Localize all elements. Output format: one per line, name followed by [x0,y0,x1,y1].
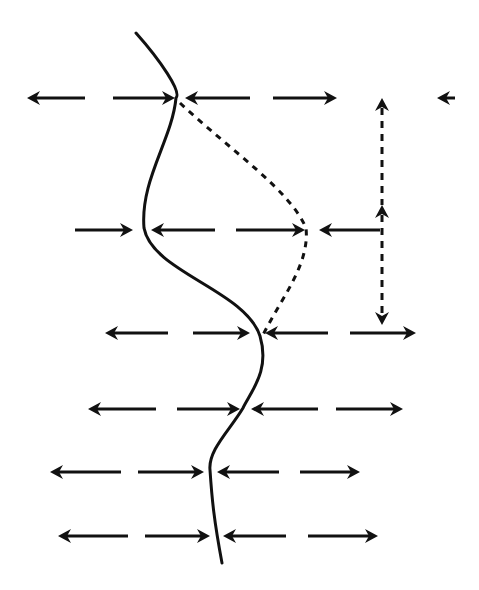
diagram-canvas [0,0,479,590]
background [0,0,479,590]
